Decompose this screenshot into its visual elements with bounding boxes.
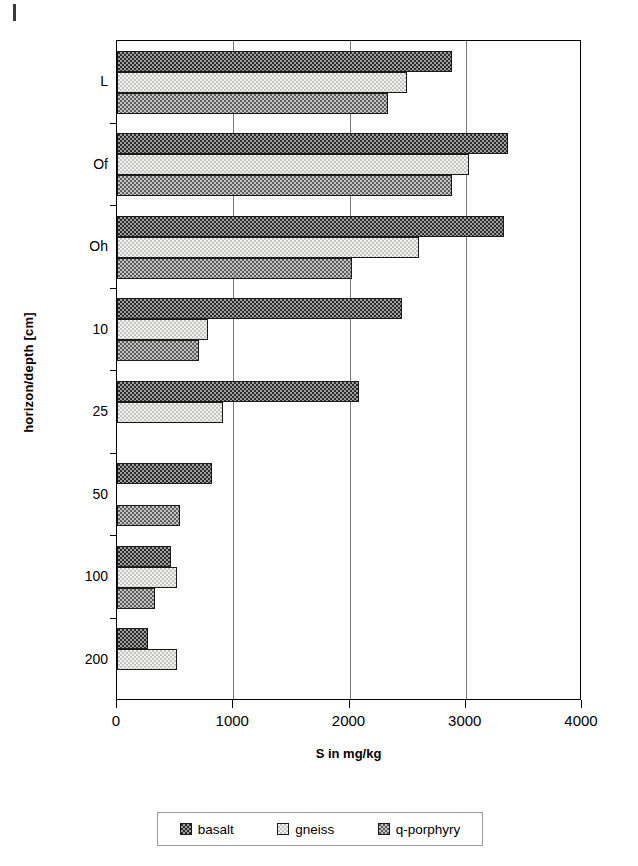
chart-legend: basaltgneissq-porphyry bbox=[157, 812, 483, 846]
x-axis-tick-label-3000: 3000 bbox=[425, 712, 505, 729]
x-axis-tick-label-4000: 4000 bbox=[541, 712, 621, 729]
y-axis-tick bbox=[110, 288, 117, 289]
legend-item-label: gneiss bbox=[295, 822, 334, 837]
light-dotted-swatch bbox=[277, 823, 289, 835]
legend-item-q-porphyry: q-porphyry bbox=[378, 822, 461, 837]
bar-basalt bbox=[117, 628, 148, 649]
y-axis-tick bbox=[110, 453, 117, 454]
y-axis-label-Of: Of bbox=[38, 157, 108, 171]
y-axis-label-Oh: Oh bbox=[38, 239, 108, 253]
category-band bbox=[117, 454, 580, 537]
y-axis-label-25: 25 bbox=[38, 404, 108, 418]
x-axis-tick-label-2000: 2000 bbox=[309, 712, 389, 729]
bar-basalt bbox=[117, 133, 508, 154]
bar-gneiss bbox=[117, 649, 177, 670]
bar-basalt bbox=[117, 463, 212, 484]
bar-q-porphyry bbox=[117, 93, 388, 114]
bar-q-porphyry bbox=[117, 588, 155, 609]
category-band bbox=[117, 536, 580, 619]
bar-q-porphyry bbox=[117, 258, 352, 279]
y-axis-tick bbox=[110, 123, 117, 124]
plot-area bbox=[116, 40, 581, 700]
bar-gneiss bbox=[117, 154, 469, 175]
legend-item-label: q-porphyry bbox=[396, 822, 461, 837]
y-axis-tick bbox=[110, 370, 117, 371]
legend-item-label: basalt bbox=[198, 822, 234, 837]
category-band bbox=[117, 619, 580, 702]
y-axis-tick bbox=[110, 535, 117, 536]
y-axis-label-200: 200 bbox=[38, 652, 108, 666]
y-axis-tick bbox=[110, 618, 117, 619]
bar-q-porphyry bbox=[117, 505, 180, 526]
y-axis-label-100: 100 bbox=[38, 569, 108, 583]
dark-checkered-swatch bbox=[180, 823, 192, 835]
bar-gneiss bbox=[117, 72, 407, 93]
category-band bbox=[117, 206, 580, 289]
bar-chart-figure: horizon/depth [cm] LOfOh102550100200 010… bbox=[0, 0, 638, 866]
bar-basalt bbox=[117, 546, 171, 567]
x-axis-tick-2000 bbox=[349, 700, 350, 708]
bar-gneiss bbox=[117, 319, 208, 340]
x-axis-tick-label-1000: 1000 bbox=[192, 712, 272, 729]
bar-basalt bbox=[117, 51, 452, 72]
x-axis-tick-3000 bbox=[465, 700, 466, 708]
bar-gneiss bbox=[117, 237, 419, 258]
bar-q-porphyry bbox=[117, 340, 199, 361]
legend-item-gneiss: gneiss bbox=[277, 822, 334, 837]
x-axis-tick-4000 bbox=[581, 700, 582, 708]
x-axis-tick-label-0: 0 bbox=[76, 712, 156, 729]
x-axis-tick-1000 bbox=[232, 700, 233, 708]
medium-checkered-swatch bbox=[378, 823, 390, 835]
legend-item-basalt: basalt bbox=[180, 822, 234, 837]
y-axis-label-10: 10 bbox=[38, 322, 108, 336]
bar-basalt bbox=[117, 381, 359, 402]
bar-basalt bbox=[117, 216, 504, 237]
category-band bbox=[117, 289, 580, 372]
bar-q-porphyry bbox=[117, 175, 452, 196]
y-axis-tick bbox=[110, 205, 117, 206]
x-axis-title: S in mg/kg bbox=[116, 746, 581, 761]
bars-layer bbox=[117, 41, 580, 699]
bar-gneiss bbox=[117, 402, 223, 423]
y-axis-label-50: 50 bbox=[38, 487, 108, 501]
y-axis-labels: LOfOh102550100200 bbox=[30, 0, 108, 866]
category-band bbox=[117, 41, 580, 124]
bar-gneiss bbox=[117, 567, 177, 588]
bar-basalt bbox=[117, 298, 402, 319]
y-axis-label-L: L bbox=[38, 74, 108, 88]
category-band bbox=[117, 124, 580, 207]
category-band bbox=[117, 371, 580, 454]
x-axis-tick-0 bbox=[116, 700, 117, 708]
